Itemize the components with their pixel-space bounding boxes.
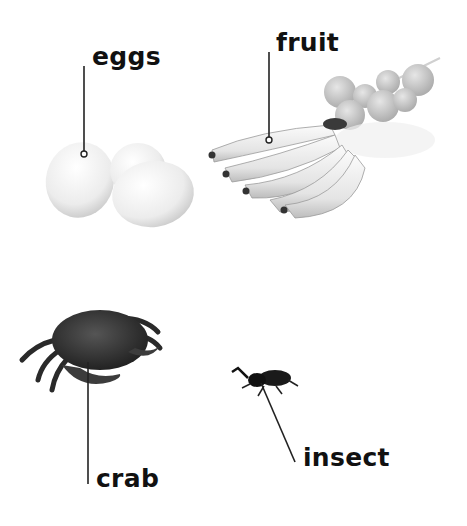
insect-leader-line xyxy=(261,383,295,462)
fruit-image xyxy=(209,58,441,218)
eggs-label: eggs xyxy=(92,44,161,69)
crab-label: crab xyxy=(96,466,159,491)
insect-label: insect xyxy=(303,445,390,470)
leader-lines xyxy=(81,52,295,484)
eggs-image xyxy=(37,134,198,232)
fruit-leader-dot xyxy=(266,137,272,143)
eggs-leader-dot xyxy=(81,151,87,157)
crab-image xyxy=(22,310,160,390)
fruit-label: fruit xyxy=(276,30,339,55)
illustration-canvas xyxy=(0,0,467,526)
